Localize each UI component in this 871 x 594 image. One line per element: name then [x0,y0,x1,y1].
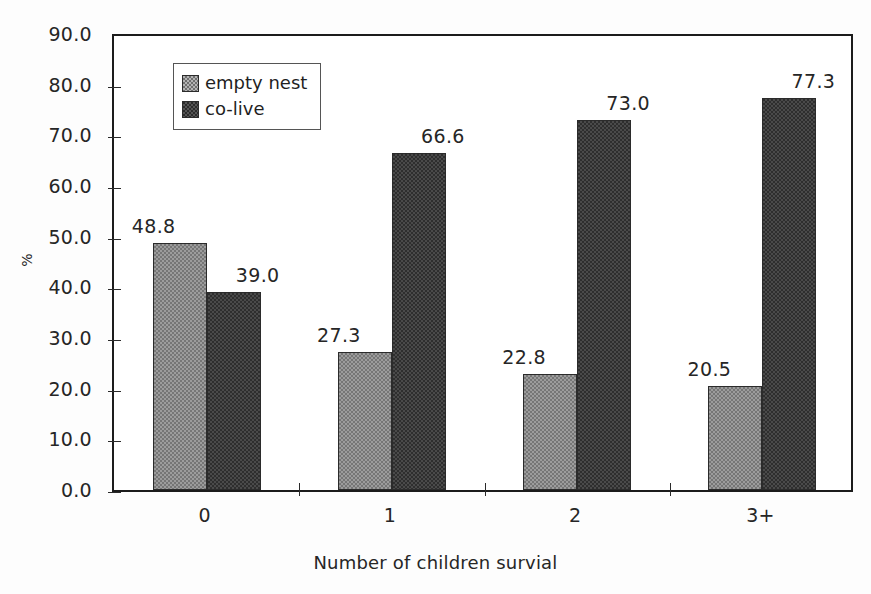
y-axis-tick-label: 60.0 [14,177,92,196]
y-axis-tick-label: 50.0 [14,228,92,247]
y-axis-tick-mark [108,188,121,189]
x-axis-tick-label: 2 [535,506,615,525]
y-axis-tick-mark [108,340,121,341]
x-axis-tick-mark [299,483,300,496]
y-axis-tick-mark [108,289,121,290]
bar[interactable] [708,386,762,490]
bar[interactable] [392,153,446,490]
legend-swatch-empty-nest [182,75,199,92]
y-axis-title: % [19,247,35,273]
y-axis-tick-label: 70.0 [14,126,92,145]
bar[interactable] [523,374,577,490]
bar-value-label: 27.3 [299,326,379,345]
bar-value-label: 22.8 [484,348,564,367]
bar-value-label: 73.0 [588,94,668,113]
y-axis-tick-label: 0.0 [14,481,92,500]
y-axis-tick-label: 10.0 [14,430,92,449]
chart-legend: empty nest co-live [173,63,321,130]
bar[interactable] [207,292,261,490]
bar[interactable] [338,352,392,490]
y-axis-tick-label: 20.0 [14,380,92,399]
y-axis-tick-labels: 90.080.070.060.050.040.030.020.010.00.0 [14,0,92,594]
y-axis-tick-mark [108,391,121,392]
bar-chart: 90.080.070.060.050.040.030.020.010.00.0 … [0,0,871,594]
x-axis-tick-mark [670,483,671,496]
y-axis-tick-label: 30.0 [14,329,92,348]
legend-label-co-live: co-live [205,100,264,118]
bar-value-label: 77.3 [773,72,853,91]
y-axis-tick-mark [108,87,121,88]
x-axis-tick-label: 3+ [720,506,800,525]
y-axis-tick-mark [108,441,121,442]
y-axis-tick-mark [108,492,121,493]
y-axis-tick-label: 40.0 [14,278,92,297]
bar-value-label: 39.0 [218,266,298,285]
bar-value-label: 48.8 [114,217,194,236]
bar-value-label: 20.5 [669,360,749,379]
legend-swatch-co-live [182,101,199,118]
y-axis-tick-label: 90.0 [14,25,92,44]
bar-value-label: 66.6 [403,127,483,146]
legend-label-empty-nest: empty nest [205,74,307,92]
bar[interactable] [577,120,631,490]
y-axis-tick-label: 80.0 [14,76,92,95]
y-axis-tick-mark [108,137,121,138]
y-axis-tick-mark [108,239,121,240]
x-axis-title: Number of children survial [0,552,871,573]
x-axis-tick-label: 1 [350,506,430,525]
legend-item-co-live[interactable]: co-live [182,96,312,122]
bar[interactable] [762,98,816,490]
legend-item-empty-nest[interactable]: empty nest [182,70,312,96]
x-axis-tick-mark [485,483,486,496]
x-axis-tick-label: 0 [165,506,245,525]
bar[interactable] [153,243,207,490]
